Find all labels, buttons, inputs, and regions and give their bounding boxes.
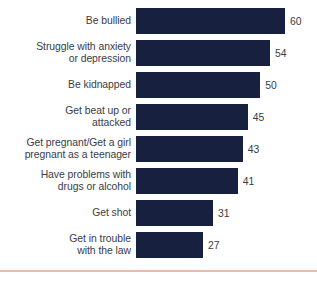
bar-value-label: 31 [218, 208, 230, 219]
bar-category-label: Get shot [0, 207, 131, 219]
bottom-divider-rule [0, 270, 317, 272]
bar-category-label: Be kidnapped [0, 79, 131, 91]
bar-row: Get beat up or attacked45 [0, 104, 317, 130]
bar-category-label: Get beat up or attacked [0, 105, 131, 128]
bar-category-label: Get in trouble with the law [0, 233, 131, 256]
bar-track: 60 [136, 8, 317, 34]
bar-value-label: 41 [243, 176, 255, 187]
bar [136, 168, 238, 194]
bar-value-label: 27 [208, 240, 220, 251]
bar-track: 31 [136, 200, 317, 226]
bar-value-label: 50 [265, 80, 277, 91]
bar-category-label: Struggle with anxiety or depression [0, 41, 131, 64]
bar-value-label: 43 [248, 144, 260, 155]
bar [136, 104, 248, 130]
bar [136, 72, 260, 98]
bar [136, 8, 285, 34]
bar-track: 41 [136, 168, 317, 194]
bar-category-label: Get pregnant/Get a girl pregnant as a te… [0, 137, 131, 160]
bar-category-label: Be bullied [0, 15, 131, 27]
bar-row: Be kidnapped50 [0, 72, 317, 98]
chart-plot-area: Be bullied60Struggle with anxiety or dep… [0, 8, 317, 264]
bar-row: Get in trouble with the law27 [0, 232, 317, 258]
bar-row: Struggle with anxiety or depression54 [0, 40, 317, 66]
bar-chart: Be bullied60Struggle with anxiety or dep… [0, 0, 317, 283]
bar-track: 43 [136, 136, 317, 162]
bar-track: 54 [136, 40, 317, 66]
bar-row: Be bullied60 [0, 8, 317, 34]
bar-value-label: 45 [253, 112, 265, 123]
bar-value-label: 54 [275, 48, 287, 59]
bar-category-label: Have problems with drugs or alcohol [0, 169, 131, 192]
bar-track: 45 [136, 104, 317, 130]
bar-track: 27 [136, 232, 317, 258]
bar [136, 232, 203, 258]
bar-track: 50 [136, 72, 317, 98]
bar-value-label: 60 [290, 16, 302, 27]
bar-row: Have problems with drugs or alcohol41 [0, 168, 317, 194]
bar-row: Get shot31 [0, 200, 317, 226]
bar [136, 136, 243, 162]
bar [136, 200, 213, 226]
bar [136, 40, 270, 66]
bar-row: Get pregnant/Get a girl pregnant as a te… [0, 136, 317, 162]
